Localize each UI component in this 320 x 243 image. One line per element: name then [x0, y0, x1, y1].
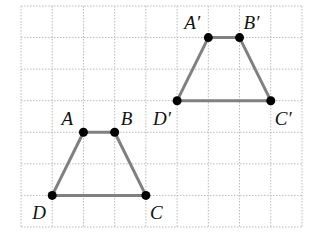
trapezoid-edges [177, 38, 271, 101]
vertex-label: A [61, 109, 73, 128]
vertex-label: C′ [275, 109, 292, 128]
vertex-point [141, 191, 150, 200]
vertex-label: B [121, 109, 133, 128]
vertex-point [48, 191, 57, 200]
vertex-label: D [32, 203, 46, 222]
trapezoid-a-prime-b-prime-c-prime-d-prime [173, 33, 276, 105]
vertex-point [110, 128, 119, 137]
vertex-point [79, 128, 88, 137]
vertex-point [173, 96, 182, 105]
vertex-label: A′ [184, 13, 200, 32]
vertex-point [266, 96, 275, 105]
vertex-label: D′ [153, 109, 171, 128]
vertex-point [235, 33, 244, 42]
vertex-label: B′ [244, 13, 260, 32]
vertex-label: C [150, 203, 163, 222]
vertex-point [204, 33, 213, 42]
